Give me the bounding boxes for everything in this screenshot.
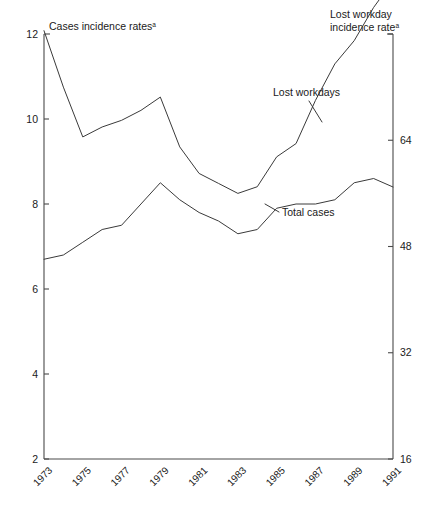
right-axis-tick-label: 64 xyxy=(400,134,412,146)
x-axis-tick-label: 1973 xyxy=(31,464,55,488)
left-axis-tick-label: 12 xyxy=(26,28,38,40)
x-axis-tick-label: 1983 xyxy=(225,464,249,488)
right-axis-tick-label: 48 xyxy=(400,240,412,252)
series-label-lost-workdays: Lost workdays xyxy=(273,86,340,98)
x-axis-tick-label: 1979 xyxy=(147,464,171,488)
series-annotations-group: Lost workdaysTotal cases xyxy=(265,86,340,218)
left-axis-tick-label: 2 xyxy=(32,453,38,465)
incidence-rates-line-chart: Cases incidence ratesa Lost workday inci… xyxy=(0,0,424,507)
x-axis-tick-label: 1981 xyxy=(186,464,210,488)
x-axis-tick-label: 1975 xyxy=(70,464,94,488)
left-axis-title: Cases incidence ratesa xyxy=(49,20,156,32)
left-y-axis: 24681012 xyxy=(26,28,50,465)
left-axis-tick-label: 8 xyxy=(32,198,38,210)
series-lines-group xyxy=(44,0,393,259)
x-axis-tick-label: 1991 xyxy=(380,464,404,488)
x-axis-tick-label: 1977 xyxy=(108,464,132,488)
right-axis-title-line1: Lost workday xyxy=(330,8,393,20)
x-axis-tick-label: 1987 xyxy=(302,464,326,488)
chart-container: Cases incidence ratesa Lost workday inci… xyxy=(0,0,424,507)
series-line-total-cases xyxy=(44,179,393,260)
right-y-axis: 16324864 xyxy=(387,34,412,465)
footnote-marker: a xyxy=(152,21,156,28)
left-axis-tick-label: 6 xyxy=(32,283,38,295)
x-axis-tick-label: 1985 xyxy=(264,464,288,488)
axis-titles-group: Cases incidence ratesa Lost workday inci… xyxy=(49,8,399,33)
x-axis-tick-label: 1989 xyxy=(341,464,365,488)
right-axis-tick-label: 16 xyxy=(400,453,412,465)
footnote-marker: a xyxy=(395,22,399,29)
left-axis-tick-label: 10 xyxy=(26,113,38,125)
left-axis-tick-label: 4 xyxy=(32,368,38,380)
series-label-total-cases: Total cases xyxy=(282,206,335,218)
right-axis-tick-label: 32 xyxy=(400,346,412,358)
x-axis: 1973197519771979198119831985198719891991 xyxy=(31,459,404,488)
